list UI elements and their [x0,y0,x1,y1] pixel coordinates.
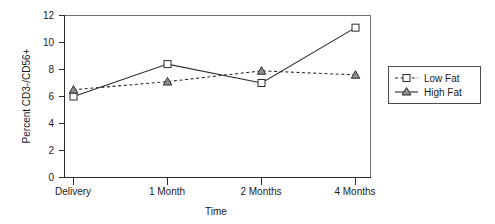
y-tick-label-8: 8 [48,64,54,75]
legend-label-low-fat: Low Fat [424,73,460,84]
x-tick-label-1-month: 1 Month [149,186,185,197]
y-tick-label-4: 4 [48,118,54,129]
legend: Low Fat High Fat [389,67,481,104]
series-solid-square-series [70,24,359,100]
x-axis-title: Time [205,206,227,217]
series-layer [69,24,359,100]
data-point-square [258,80,265,87]
line-chart: 0 2 4 6 8 10 12 Delivery 1 Month 2 Month… [0,0,495,224]
x-axis-ticks [74,178,356,185]
x-tick-label-4-months: 4 Months [334,186,375,197]
series-dashed-triangle-series [69,67,359,93]
y-tick-label-10: 10 [43,37,55,48]
chart-figure: 0 2 4 6 8 10 12 Delivery 1 Month 2 Month… [0,0,495,224]
legend-square-icon [403,75,410,82]
y-tick-label-12: 12 [43,10,55,21]
series-line [74,28,356,97]
y-tick-label-0: 0 [48,172,54,183]
y-tick-label-6: 6 [48,91,54,102]
data-point-square [70,93,77,100]
y-axis-ticks [59,16,65,178]
data-point-square [164,61,171,68]
legend-label-high-fat: High Fat [424,87,462,98]
y-tick-label-2: 2 [48,145,54,156]
y-axis-title: Percent CD3-/CD56+ [21,48,32,143]
data-point-square [352,24,359,31]
x-tick-label-2-months: 2 Months [240,186,281,197]
plot-frame [65,16,371,178]
x-tick-label-delivery: Delivery [55,186,91,197]
